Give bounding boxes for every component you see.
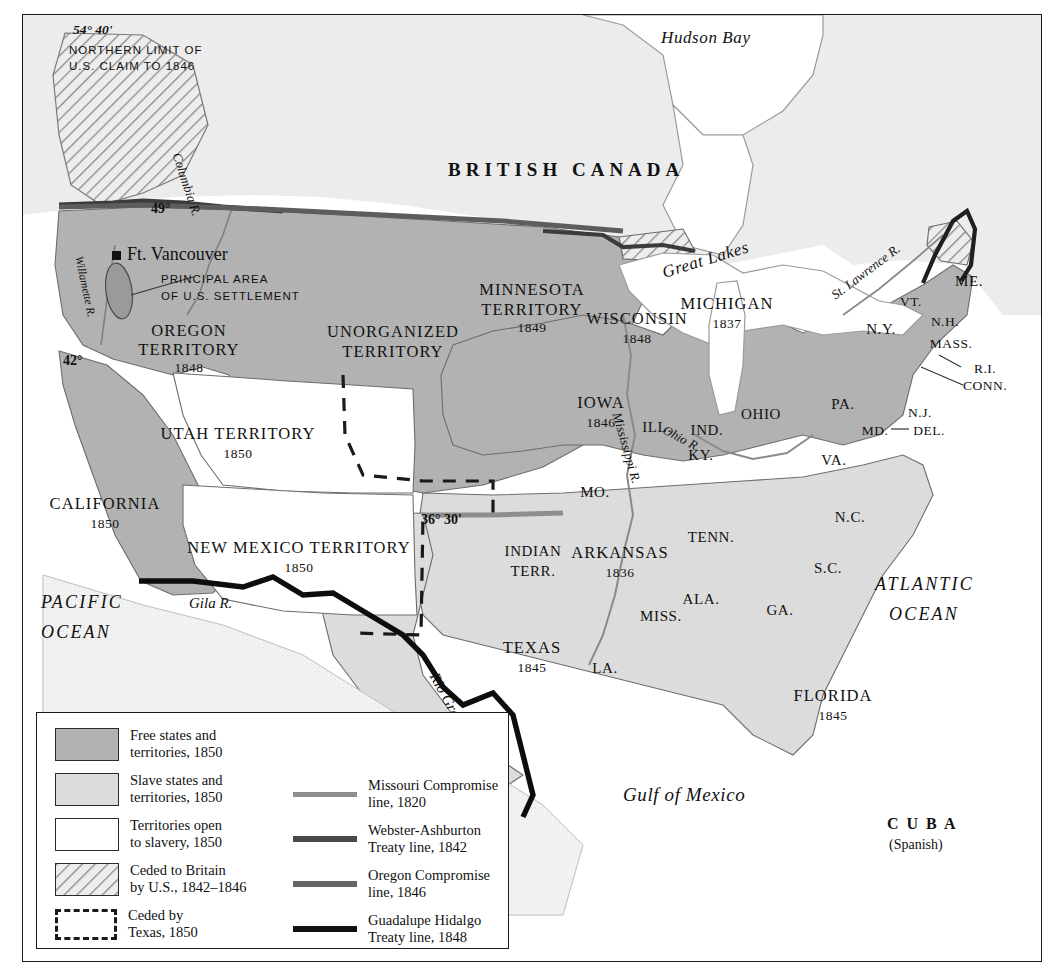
label-state-maryland: MD. [862,424,889,439]
label-state-new-hampshire: N.H. [931,315,959,330]
label-state-new-jersey: N.J. [908,406,932,421]
label-gila-river: Gila R. [189,595,232,612]
legend-label-oregon-compromise-line1: Oregon Compromise [368,867,490,884]
label-state-kentucky: KY. [688,447,713,464]
map-legend: Free states and territories, 1850 Slave … [36,712,509,949]
label-minnesota-territory-name2: TERRITORY [481,301,582,319]
label-minnesota-territory-name: MINNESOTA [479,281,585,299]
label-utah-territory-year: 1850 [224,447,253,462]
label-state-alabama: ALA. [683,591,720,608]
legend-label-ceded-britain-line2: by U.S., 1842–1846 [130,879,246,896]
legend-line-webster-ashburton [293,836,357,842]
label-ft-vancouver: Ft. Vancouver [127,245,228,265]
legend-label-ceded-britain-line1: Ceded to Britain [130,862,246,879]
label-atlantic-ocean-line1: ATLANTIC [875,575,974,595]
legend-notch [293,712,510,756]
label-state-arkansas-year: 1836 [606,566,635,581]
legend-item-open-territories: Territories open to slavery, 1850 [55,817,222,851]
legend-swatch-ceded-texas [55,909,117,940]
label-state-texas: TEXAS [503,639,562,657]
label-cuba-sub: (Spanish) [889,837,943,852]
legend-line-missouri-compromise [293,792,357,797]
label-utah-territory-name: UTAH TERRITORY [160,425,315,443]
label-state-iowa-year: 1846 [587,416,616,431]
map-frame: 54° 40' NORTHERN LIMIT OF U.S. CLAIM TO … [22,14,1042,962]
label-state-indiana: IND. [691,422,724,439]
label-state-tennessee: TENN. [688,529,735,546]
legend-label-free-states: Free states and territories, 1850 [130,727,223,761]
legend-label-ceded-texas: Ceded by Texas, 1850 [128,907,198,941]
label-claim-line2: U.S. CLAIM TO 1846 [69,60,195,73]
legend-item-missouri-compromise: Missouri Compromise line, 1820 [293,777,498,811]
legend-label-free-states-line1: Free states and [130,727,223,744]
label-unorganized-territory-name2: TERRITORY [342,343,443,361]
label-hudson-bay: Hudson Bay [661,29,751,48]
label-indian-territory-name2: TERR. [510,563,555,580]
legend-label-guadalupe-hidalgo-line2: Treaty line, 1848 [368,929,481,946]
label-state-illinois: ILL. [642,419,671,436]
legend-item-ceded-britain: Ceded to Britain by U.S., 1842–1846 [55,862,246,896]
label-state-new-york: N.Y. [866,321,896,338]
legend-label-free-states-line2: territories, 1850 [130,744,223,761]
label-indian-territory-name: INDIAN [505,543,562,560]
ft-vancouver-marker [112,251,121,260]
legend-item-ceded-texas: Ceded by Texas, 1850 [55,907,198,941]
label-state-louisiana: LA. [592,660,618,677]
label-state-arkansas: ARKANSAS [571,544,669,562]
label-state-florida-year: 1845 [819,709,848,724]
label-unorganized-territory-name: UNORGANIZED [327,323,459,341]
label-state-texas-year: 1845 [518,661,547,676]
legend-line-oregon-compromise [293,881,357,887]
legend-label-ceded-texas-line2: Texas, 1850 [128,924,198,941]
label-atlantic-ocean-line2: OCEAN [889,605,959,625]
label-state-florida: FLORIDA [793,687,872,705]
label-pacific-ocean-line1: PACIFIC [41,593,123,613]
legend-label-guadalupe-hidalgo: Guadalupe Hidalgo Treaty line, 1848 [368,912,481,946]
label-gulf-of-mexico: Gulf of Mexico [623,785,745,806]
legend-item-guadalupe-hidalgo: Guadalupe Hidalgo Treaty line, 1848 [293,912,481,946]
legend-swatch-slave-states [55,773,119,806]
legend-label-slave-states-line1: Slave states and [130,772,223,789]
legend-label-missouri-compromise: Missouri Compromise line, 1820 [368,777,498,811]
legend-label-webster-ashburton-line1: Webster-Ashburton [368,822,481,839]
legend-label-open-territories-line1: Territories open [130,817,222,834]
label-state-california-year: 1850 [91,517,120,532]
legend-label-open-territories: Territories open to slavery, 1850 [130,817,222,851]
label-oregon-territory-year: 1848 [175,361,204,376]
legend-swatch-free-states [55,728,119,761]
legend-swatch-ceded-britain [55,863,119,896]
label-state-connecticut: CONN. [963,379,1007,394]
historical-map: 54° 40' NORTHERN LIMIT OF U.S. CLAIM TO … [0,0,1062,976]
label-new-mexico-territory-year: 1850 [285,561,314,576]
label-claim-latitude: 54° 40' [73,23,113,38]
label-state-wisconsin: WISCONSIN [586,310,688,328]
label-state-georgia: GA. [766,602,793,619]
label-lat-36-30: 36° 30' [421,512,462,527]
label-state-maine: ME. [955,273,983,290]
legend-item-slave-states: Slave states and territories, 1850 [55,772,223,806]
label-state-delaware: DEL. [913,424,945,439]
legend-label-webster-ashburton: Webster-Ashburton Treaty line, 1842 [368,822,481,856]
label-state-mississippi: MISS. [640,608,682,625]
legend-label-slave-states-line2: territories, 1850 [130,789,223,806]
label-oregon-territory-name2: TERRITORY [138,341,239,359]
label-lat-49: 49° [151,201,171,216]
label-state-rhode-island: R.I. [974,362,996,377]
label-state-massachusetts: MASS. [930,337,973,352]
label-british-canada: BRITISH CANADA [448,160,684,181]
label-state-pennsylvania: PA. [831,396,854,413]
legend-label-missouri-compromise-line1: Missouri Compromise [368,777,498,794]
label-state-california: CALIFORNIA [50,495,161,513]
label-state-iowa: IOWA [577,394,624,412]
legend-swatch-open-territories [55,818,119,851]
label-state-wisconsin-year: 1848 [623,332,652,347]
legend-label-guadalupe-hidalgo-line1: Guadalupe Hidalgo [368,912,481,929]
legend-label-webster-ashburton-line2: Treaty line, 1842 [368,839,481,856]
legend-item-oregon-compromise: Oregon Compromise line, 1846 [293,867,490,901]
legend-label-slave-states: Slave states and territories, 1850 [130,772,223,806]
legend-label-missouri-compromise-line2: line, 1820 [368,794,498,811]
label-new-mexico-territory-name: NEW MEXICO TERRITORY [187,539,411,557]
legend-label-ceded-texas-line1: Ceded by [128,907,198,924]
label-lat-42: 42° [63,353,83,368]
label-state-north-carolina: N.C. [835,509,866,526]
